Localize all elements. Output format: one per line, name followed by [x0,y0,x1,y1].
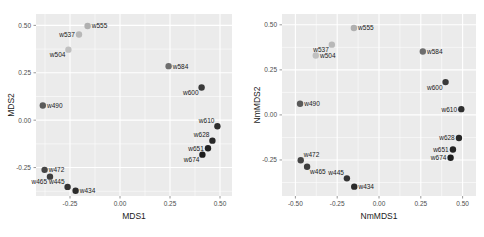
data-point[interactable] [442,79,448,85]
point-label: w537 [58,31,75,38]
point-label: w445 [327,169,344,176]
data-point[interactable] [313,52,319,58]
x-tick-label: 0.50 [214,200,227,207]
data-point[interactable] [84,23,90,29]
y-axis-title: NmMDS2 [252,86,262,123]
data-point[interactable] [456,135,462,141]
y-tick-label: 0.00 [264,111,277,118]
point-label: w555 [357,24,374,31]
point-label: w628 [193,131,210,138]
point-label: w490 [46,102,63,109]
data-point[interactable] [72,187,78,193]
point-label: w674 [183,156,200,163]
data-point[interactable] [199,151,205,157]
y-tick-label: 0.00 [18,117,31,124]
data-point[interactable] [214,123,220,129]
x-tick-label: -0.50 [288,200,303,207]
point-label: w651 [432,146,449,153]
data-point[interactable] [198,84,204,90]
point-label: w651 [187,145,204,152]
point-label: w555 [91,22,108,29]
y-tick-label: -0.25 [262,156,277,163]
data-point[interactable] [205,145,211,151]
data-point[interactable] [297,101,303,107]
point-label: w490 [303,100,320,107]
point-label: w504 [49,51,66,58]
x-axis-title: NmMDS1 [361,211,398,221]
x-tick-label: 0.00 [373,200,386,207]
data-point[interactable] [76,31,82,37]
x-tick-label: 0.25 [414,200,427,207]
data-point[interactable] [40,102,46,108]
data-point[interactable] [420,48,426,54]
data-point[interactable] [344,175,350,181]
data-point[interactable] [165,63,171,69]
data-point[interactable] [447,155,453,161]
point-label: w445 [48,178,65,185]
y-axis-title: MDS2 [6,93,16,117]
data-point[interactable] [329,41,335,47]
point-label: w610 [441,106,458,113]
y-tick-label: 0.50 [264,21,277,28]
nmmds-scatter-plot: -0.50-0.250.000.250.50-0.250.000.250.50w… [242,0,484,237]
y-tick-label: 0.25 [264,66,277,73]
x-tick-label: 0.25 [164,200,177,207]
data-point[interactable] [351,183,357,189]
data-point[interactable] [41,167,47,173]
point-label: w584 [172,63,189,70]
x-tick-label: 0.50 [456,200,469,207]
data-point[interactable] [450,146,456,152]
data-point[interactable] [209,137,215,143]
point-label: w610 [198,117,215,124]
chart-panel-mds: -0.250.000.250.50-0.250.000.250.50w555w5… [0,0,242,237]
plot-panel-background [36,14,232,196]
x-axis-title: MDS1 [122,211,146,221]
x-tick-label: -0.25 [63,200,78,207]
point-label: w472 [48,166,65,173]
point-label: w504 [319,52,336,59]
mds-scatter-plot: -0.250.000.250.50-0.250.000.250.50w555w5… [0,0,242,237]
y-tick-label: 0.50 [18,22,31,29]
x-tick-label: 0.00 [114,200,127,207]
chart-panel-nmmds: -0.50-0.250.000.250.50-0.250.000.250.50w… [242,0,484,237]
y-tick-label: -0.25 [16,164,31,171]
data-point[interactable] [65,46,71,52]
data-point[interactable] [64,184,70,190]
point-label: w628 [438,134,455,141]
x-tick-label: -0.25 [330,200,345,207]
point-label: w674 [430,154,447,161]
point-label: w600 [182,89,199,96]
point-label: w434 [79,187,96,194]
point-label: w600 [426,84,443,91]
point-label: w465 [30,178,47,185]
y-tick-label: 0.25 [18,69,31,76]
data-point[interactable] [458,106,464,112]
point-label: w434 [357,183,374,190]
data-point[interactable] [351,25,357,31]
point-label: w584 [426,48,443,55]
figure-container: -0.250.000.250.50-0.250.000.250.50w555w5… [0,0,484,237]
point-label: w465 [309,168,326,175]
point-label: w472 [303,151,320,158]
